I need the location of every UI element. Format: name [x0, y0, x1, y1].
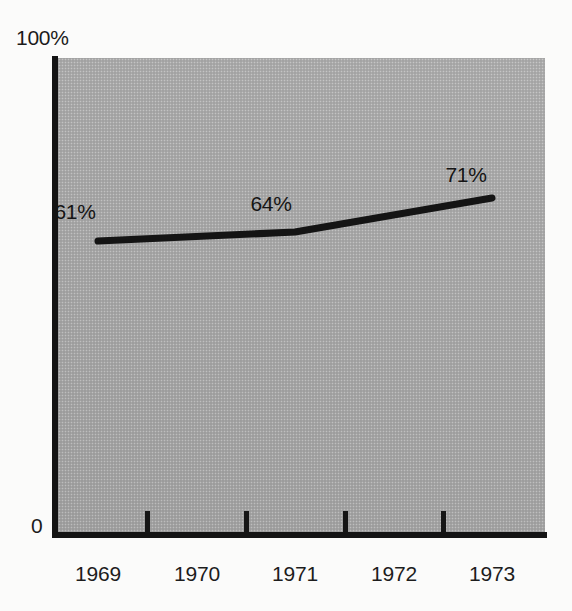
x-axis-tick: [145, 511, 150, 533]
y-axis-line: [52, 56, 58, 538]
x-axis-label-1971: 1971: [272, 562, 318, 586]
x-axis-label-1973: 1973: [469, 562, 515, 586]
x-axis-label-1969: 1969: [75, 562, 121, 586]
plot-area: [58, 58, 545, 535]
x-axis-line: [52, 532, 547, 538]
x-axis-label-1972: 1972: [371, 562, 417, 586]
x-axis-tick: [441, 511, 446, 533]
data-label-1973: 71%: [445, 163, 486, 187]
x-axis-tick: [343, 511, 348, 533]
data-label-1971: 64%: [250, 192, 291, 216]
x-axis-tick: [244, 511, 249, 533]
y-axis-label-min: 0: [31, 514, 43, 538]
chart-figure: 100% 0 1969 1970 1971 1972 1973 61% 64% …: [0, 0, 572, 611]
y-axis-label-max: 100%: [16, 26, 69, 50]
plot-area-texture: [58, 58, 545, 535]
x-axis-label-1970: 1970: [174, 562, 220, 586]
data-label-1969: 61%: [54, 200, 95, 224]
